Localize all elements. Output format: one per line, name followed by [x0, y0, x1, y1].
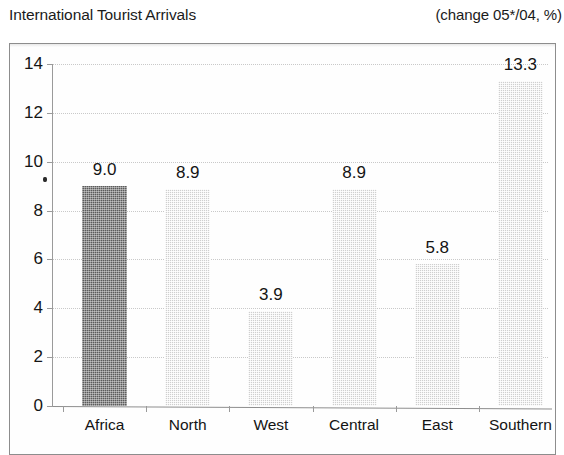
bar-east: 5.8: [415, 264, 460, 406]
chart-header: International Tourist Arrivals (change 0…: [0, 0, 564, 40]
bar-value-label: 13.3: [504, 55, 537, 75]
x-axis-tick: [479, 406, 480, 412]
bar-value-label: 3.9: [259, 285, 283, 305]
y-axis-tick: [47, 308, 53, 309]
y-axis-tick-label: 4: [34, 298, 43, 318]
y-axis-tick: [47, 113, 53, 114]
x-axis-tick: [146, 406, 147, 412]
bar-value-label: 8.9: [342, 163, 366, 183]
y-axis-tick: [47, 357, 53, 358]
page-title: International Tourist Arrivals: [9, 6, 196, 24]
x-axis-label-southern: Southern: [489, 416, 552, 434]
bar-west: 3.9: [248, 311, 293, 406]
y-axis-tick: [47, 162, 53, 163]
chart-units-note: (change 05*/04, %): [435, 6, 562, 23]
gridline: [52, 113, 548, 114]
bar-africa: 9.0: [82, 186, 127, 406]
bar-north: 8.9: [165, 189, 210, 406]
scan-speck-artifact: [43, 177, 47, 182]
x-axis-label-africa: Africa: [85, 416, 125, 434]
y-axis-tick-label: 2: [34, 347, 43, 367]
y-axis-tick: [47, 64, 53, 65]
y-axis-tick-label: 0: [34, 396, 43, 416]
plot-area: 02468101214 9.08.93.98.95.813.3 AfricaNo…: [52, 64, 556, 406]
y-axis-tick: [47, 406, 53, 407]
bar-southern: 13.3: [498, 81, 543, 406]
chart-frame: 02468101214 9.08.93.98.95.813.3 AfricaNo…: [9, 43, 556, 455]
x-axis-label-north: North: [169, 416, 207, 434]
x-axis-label-east: East: [422, 416, 453, 434]
x-axis-tick: [313, 406, 314, 412]
x-axis-label-west: West: [253, 416, 288, 434]
y-axis-line: [52, 64, 53, 407]
bar-value-label: 9.0: [93, 160, 117, 180]
y-axis-tick: [47, 259, 53, 260]
gridline: [52, 162, 548, 163]
x-axis-line: [52, 406, 552, 409]
y-axis-tick-label: 8: [34, 201, 43, 221]
bar-value-label: 8.9: [176, 163, 200, 183]
bar-value-label: 5.8: [425, 238, 449, 258]
y-axis-tick: [47, 211, 53, 212]
y-axis-tick-label: 6: [34, 249, 43, 269]
x-axis-tick: [63, 406, 64, 412]
bar-central: 8.9: [332, 189, 377, 406]
y-axis-tick-label: 12: [24, 103, 43, 123]
y-axis-tick-label: 10: [24, 152, 43, 172]
gridline: [52, 64, 548, 65]
x-axis-tick: [229, 406, 230, 412]
x-axis-label-central: Central: [329, 416, 379, 434]
y-axis-tick-label: 14: [24, 54, 43, 74]
scan-shade: [10, 44, 555, 47]
x-axis-tick: [396, 406, 397, 412]
